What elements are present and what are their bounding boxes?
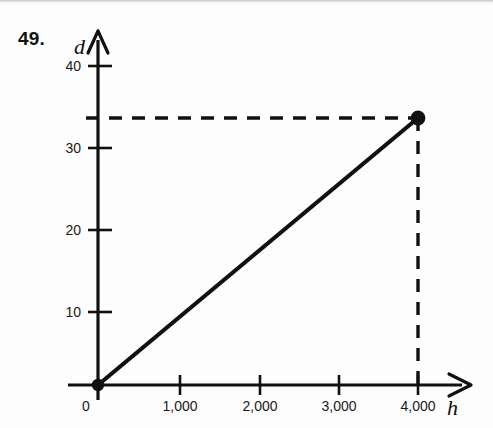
x-tick-label-group: 0 1,000 2,000 3,000 4,000 — [82, 398, 436, 414]
y-axis-label: d — [74, 34, 86, 59]
y-tick-label-group: 40 30 20 10 — [65, 58, 81, 320]
x-tick-label: 2,000 — [242, 398, 277, 414]
x-tick-label: 3,000 — [321, 398, 356, 414]
y-tick-label: 20 — [65, 222, 81, 238]
x-tick-label: 0 — [82, 398, 90, 414]
coordinate-graph: d h 40 30 20 10 0 1,000 2,000 3,000 4,0 — [0, 0, 493, 428]
data-line — [98, 118, 418, 385]
endpoint-marker — [411, 111, 426, 126]
x-tick-label: 4,000 — [400, 398, 435, 414]
y-tick-group — [88, 66, 112, 312]
origin-point-marker — [92, 379, 104, 391]
axes-group — [68, 31, 471, 400]
y-tick-label: 40 — [65, 58, 81, 74]
x-tick-label: 1,000 — [162, 398, 197, 414]
y-tick-label: 30 — [65, 140, 81, 156]
x-axis-label: h — [447, 395, 458, 420]
worksheet-page: 49. d h 40 30 20 10 — [0, 0, 493, 428]
y-tick-label: 10 — [65, 304, 81, 320]
